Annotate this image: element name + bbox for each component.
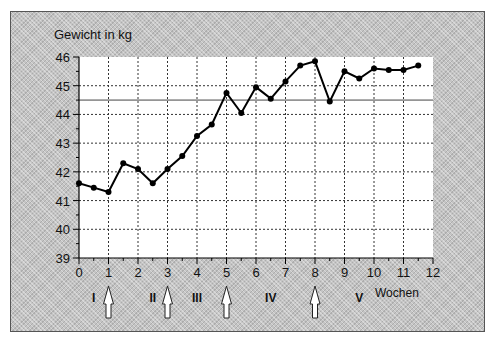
data-point (135, 166, 141, 172)
data-point (106, 189, 112, 195)
data-point (179, 153, 185, 159)
data-point (283, 78, 289, 84)
weight-line-chart: 3940414243444546 0123456789101112 Gewich… (0, 0, 493, 342)
phase-label: II (149, 291, 156, 305)
data-point (312, 58, 318, 64)
y-tick-label: 39 (56, 251, 70, 266)
data-point (297, 63, 303, 69)
data-point (371, 65, 377, 71)
up-arrow-icon (104, 286, 114, 318)
x-tick-label: 1 (105, 265, 112, 280)
y-tick-label: 45 (56, 79, 70, 94)
data-point (342, 68, 348, 74)
x-tick-label: 4 (193, 265, 200, 280)
data-point (194, 133, 200, 139)
x-tick-label: 9 (341, 265, 348, 280)
y-tick-label: 40 (56, 222, 70, 237)
x-tick-labels: 0123456789101112 (75, 265, 440, 280)
data-point (386, 67, 392, 73)
data-point (120, 160, 126, 166)
up-arrow-icon (222, 286, 232, 318)
x-tick-label: 10 (367, 265, 381, 280)
x-tick-label: 0 (75, 265, 82, 280)
y-tick-labels: 3940414243444546 (56, 50, 70, 266)
x-tick-label: 12 (426, 265, 440, 280)
x-tick-label: 6 (252, 265, 259, 280)
data-point (165, 166, 171, 172)
data-point (224, 90, 230, 96)
data-point (253, 84, 259, 90)
y-tick-label: 43 (56, 136, 70, 151)
x-tick-label: 7 (282, 265, 289, 280)
up-arrow-icon (163, 286, 173, 318)
x-tick-label: 3 (164, 265, 171, 280)
x-tick-label: 5 (223, 265, 230, 280)
x-tick-label: 2 (134, 265, 141, 280)
data-point (91, 185, 97, 191)
data-point (356, 76, 362, 82)
up-arrow-icon (310, 286, 320, 318)
phase-label: V (355, 291, 363, 305)
data-point (209, 121, 215, 127)
phase-label: III (192, 291, 202, 305)
y-tick-label: 42 (56, 165, 70, 180)
y-tick-label: 41 (56, 194, 70, 209)
phase-label: IV (265, 291, 276, 305)
y-axis-title: Gewicht in kg (54, 27, 132, 42)
data-point (268, 96, 274, 102)
data-point (238, 110, 244, 116)
data-point (401, 67, 407, 73)
data-point (76, 180, 82, 186)
x-tick-label: 11 (397, 265, 411, 280)
data-point (327, 99, 333, 105)
phase-label: I (92, 291, 95, 305)
arrow-markers (104, 286, 321, 318)
data-point (150, 180, 156, 186)
x-axis-title: Wochen (375, 286, 419, 300)
y-tick-label: 44 (56, 107, 70, 122)
x-tick-label: 8 (311, 265, 318, 280)
y-tick-label: 46 (56, 50, 70, 65)
data-point (415, 63, 421, 69)
